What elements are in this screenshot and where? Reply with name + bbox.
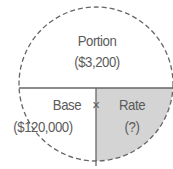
base-label: Base: [47, 96, 87, 114]
rate-value: (?): [116, 118, 148, 136]
base-value: ($120,000): [5, 118, 81, 136]
multiply-operator: ×: [88, 96, 104, 114]
rate-label: Rate: [113, 96, 152, 114]
portion-label: Portion: [66, 32, 128, 50]
formula-circle: [0, 0, 173, 169]
portion-value: ($3,200): [62, 53, 132, 71]
